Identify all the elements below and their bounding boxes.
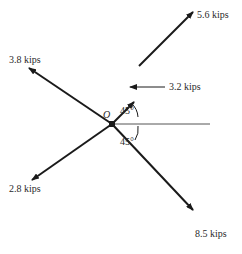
force-3-8-kips-arrow — [29, 68, 112, 124]
origin-point — [109, 121, 115, 127]
force-2-8-label: 2.8 kips — [9, 183, 41, 194]
lower-angle-label: 45° — [120, 136, 134, 147]
origin-label: O — [103, 109, 110, 120]
lower-angle-arc — [135, 126, 138, 140]
force-3-2-label: 3.2 kips — [169, 81, 201, 92]
force-diagram: O 5.6 kips 3.8 kips 2.8 kips 8.5 kips 3.… — [0, 0, 242, 254]
upper-angle-label: 45° — [120, 105, 134, 116]
force-5-6-label: 5.6 kips — [197, 9, 229, 20]
force-8-5-label: 8.5 kips — [195, 228, 227, 239]
force-2-8-kips-arrow — [32, 124, 112, 180]
force-3-8-label: 3.8 kips — [9, 54, 41, 65]
